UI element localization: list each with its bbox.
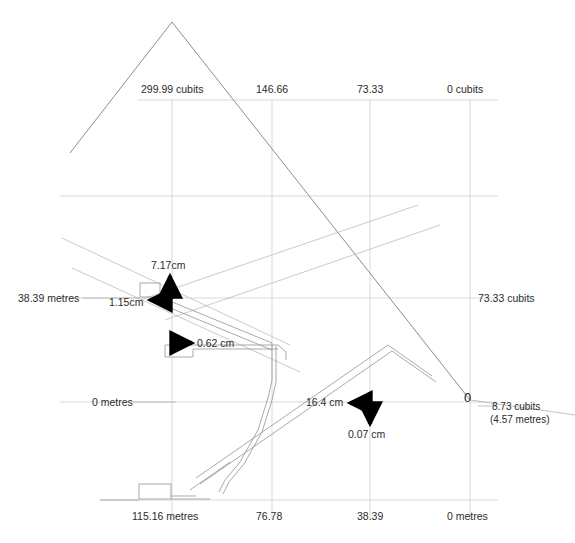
origin-zero-marker: 0 — [464, 392, 471, 404]
annotation-label-7-17cm: 7.17cm — [151, 259, 185, 271]
pyramid-cross-section-drawing — [0, 0, 575, 543]
survey-reference-lines — [62, 205, 440, 372]
origin-metres-label: (4.57 metres) — [490, 414, 549, 426]
bottom-tick-label-0: 115.16 metres — [132, 510, 198, 522]
right-tick-label-0: 73.33 cubits — [478, 292, 535, 304]
top-tick-label-2: 73.33 — [357, 83, 383, 95]
grid-lines — [60, 100, 498, 520]
diagram-canvas: 299.99 cubits 146.66 73.33 0 cubits 115.… — [0, 0, 575, 543]
internal-passages — [100, 283, 436, 500]
annotation-label-0-62cm: 0.62 cm — [197, 337, 234, 349]
left-tick-label-0: 38.39 metres — [18, 292, 79, 304]
left-tick-label-1: 0 metres — [92, 396, 133, 408]
pyramid-outline — [70, 22, 470, 400]
bottom-tick-label-1: 76.78 — [256, 510, 282, 522]
top-tick-label-3: 0 cubits — [447, 83, 483, 95]
annotation-label-0-07cm: 0.07 cm — [348, 428, 385, 440]
annotation-label-1-15cm: 1.15cm — [109, 296, 143, 308]
origin-cubits-label: 8.73 cubits — [492, 401, 540, 413]
bottom-tick-label-2: 38.39 — [357, 510, 383, 522]
top-tick-label-0: 299.99 cubits — [141, 83, 203, 95]
annotation-label-16-4cm: 16.4 cm — [306, 396, 343, 408]
top-tick-label-1: 146.66 — [256, 83, 288, 95]
bottom-tick-label-3: 0 metres — [447, 510, 488, 522]
